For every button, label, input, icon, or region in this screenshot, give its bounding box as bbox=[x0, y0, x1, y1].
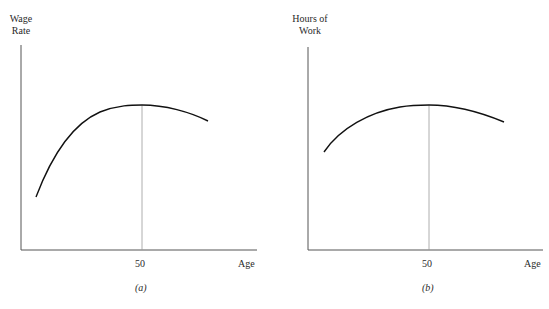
panel-a-x-tick-50: 50 bbox=[135, 258, 145, 269]
panel-b-caption: (b) bbox=[422, 282, 434, 293]
panel-b-x-tick-50: 50 bbox=[422, 258, 432, 269]
panel-a-caption: (a) bbox=[135, 282, 147, 293]
panel-b-y-axis-label: Hours of Work bbox=[288, 13, 332, 37]
panel-b-hours-curve bbox=[324, 105, 504, 152]
panel-b-x-axis-label: Age bbox=[524, 258, 541, 269]
panel-a-y-label-line1: Wage bbox=[6, 13, 36, 25]
panel-b-y-label-line2: Work bbox=[288, 25, 332, 37]
figure-canvas bbox=[0, 0, 549, 309]
panel-a-x-axis-label: Age bbox=[238, 258, 255, 269]
panel-b-y-label-line1: Hours of bbox=[288, 13, 332, 25]
panel-a-y-axis-label: Wage Rate bbox=[6, 13, 36, 37]
panel-a-y-label-line2: Rate bbox=[6, 25, 36, 37]
panel-b-plot bbox=[308, 47, 543, 250]
panel-a-plot bbox=[21, 45, 257, 250]
panel-a-wage-curve bbox=[36, 105, 208, 197]
